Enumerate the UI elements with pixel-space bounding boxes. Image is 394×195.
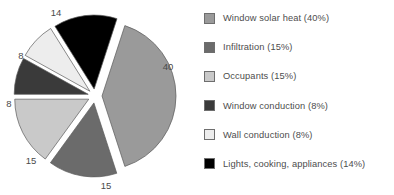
pie-slice-window-solar-heat: [102, 26, 176, 167]
legend-swatch-lights-cooking-appliances: [204, 158, 215, 169]
legend-item[interactable]: Infiltration (15%): [204, 40, 390, 54]
legend-swatch-window-solar-heat: [204, 13, 215, 24]
legend-item-label: Lights, cooking, appliances (14%): [223, 159, 365, 169]
chart-legend: Window solar heat (40%)Infiltration (15%…: [204, 11, 390, 186]
pie-slice-value-label: 15: [26, 155, 37, 166]
pie-chart-figure: 4015158814 Window solar heat (40%)Infilt…: [0, 0, 394, 195]
legend-item-label: Window conduction (8%): [223, 101, 328, 111]
pie-slice-value-label: 8: [6, 98, 11, 109]
legend-item-label: Infiltration (15%): [223, 42, 293, 52]
legend-item[interactable]: Window solar heat (40%): [204, 11, 390, 25]
pie-slice-value-label: 40: [163, 61, 174, 72]
pie-chart-svg: 4015158814: [0, 0, 200, 195]
legend-item-label: Wall conduction (8%): [223, 130, 313, 140]
legend-swatch-occupants: [204, 71, 215, 82]
legend-item-label: Window solar heat (40%): [223, 13, 329, 23]
legend-swatch-window-conduction: [204, 100, 215, 111]
pie-slices-group: [14, 15, 176, 177]
pie-slice-value-label: 15: [101, 180, 112, 191]
pie-slice-value-label: 14: [51, 7, 62, 18]
pie-chart-plot-area: 4015158814: [0, 0, 200, 195]
legend-item[interactable]: Wall conduction (8%): [204, 128, 390, 142]
legend-item[interactable]: Lights, cooking, appliances (14%): [204, 157, 390, 171]
legend-item[interactable]: Occupants (15%): [204, 69, 390, 83]
legend-swatch-wall-conduction: [204, 129, 215, 140]
legend-swatch-infiltration: [204, 42, 215, 53]
pie-slice-value-label: 8: [18, 50, 23, 61]
legend-item[interactable]: Window conduction (8%): [204, 99, 390, 113]
legend-item-label: Occupants (15%): [223, 71, 296, 81]
